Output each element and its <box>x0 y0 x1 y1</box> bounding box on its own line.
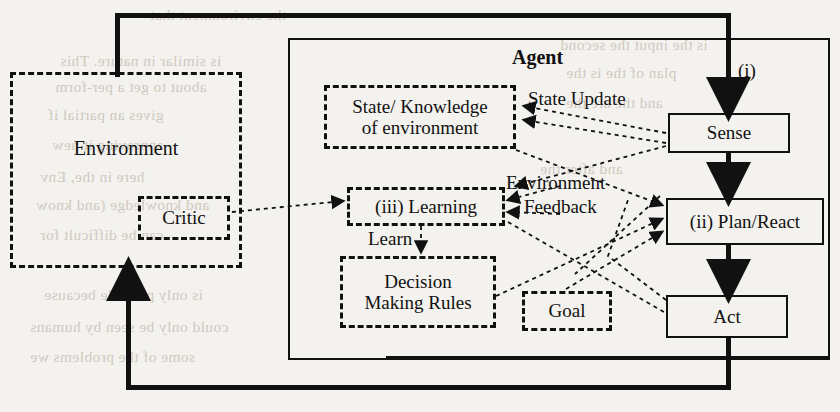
critic-node[interactable]: Critic <box>138 196 230 240</box>
learn-label: Learn <box>368 228 412 250</box>
state-knowledge-node[interactable]: State/ Knowledge of environment <box>324 85 516 149</box>
goal-label: Goal <box>549 300 586 321</box>
plan-react-node[interactable]: (ii) Plan/React <box>666 198 824 245</box>
sense-node[interactable]: Sense <box>668 113 790 153</box>
outer-loop-bottom-segment <box>126 385 731 390</box>
learning-label: (iii) Learning <box>375 196 477 217</box>
environment-feedback-label-line1: Environment <box>506 172 605 194</box>
learning-node[interactable]: (iii) Learning <box>347 187 505 226</box>
act-node[interactable]: Act <box>666 295 788 338</box>
showthrough-text: is only possible because <box>44 286 203 304</box>
loop-i-label: (i) <box>738 60 756 82</box>
showthrough-text: is similar in nature. This <box>60 52 221 70</box>
showthrough-text: some of the problems we <box>30 348 195 366</box>
outer-loop-top-segment <box>115 13 730 18</box>
state-knowledge-label-line2: of environment <box>362 117 479 138</box>
critic-label: Critic <box>162 207 205 228</box>
state-update-label: State Update <box>528 88 626 110</box>
environment-feedback-label-line2: Feedback <box>524 196 597 218</box>
diagram-canvas: the environment that is similar in natur… <box>0 0 840 412</box>
decision-making-rules-node[interactable]: Decision Making Rules <box>340 256 496 328</box>
plan-react-label: (ii) Plan/React <box>690 211 800 232</box>
decision-rules-label-line2: Making Rules <box>364 292 471 313</box>
state-knowledge-label-line1: State/ Knowledge <box>352 96 488 117</box>
agent-inner-return-line <box>386 356 830 358</box>
act-label: Act <box>713 306 740 327</box>
decision-rules-label-line1: Decision <box>384 271 452 292</box>
agent-label: Agent <box>512 46 563 69</box>
outer-loop-up-to-env-segment <box>126 268 131 390</box>
sense-label: Sense <box>707 122 751 143</box>
environment-label: Environment <box>74 137 178 159</box>
goal-node[interactable]: Goal <box>522 291 612 331</box>
outer-loop-left-segment <box>115 13 120 77</box>
